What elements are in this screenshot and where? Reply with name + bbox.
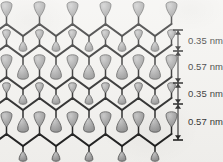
- scale-bar-svg: [0, 0, 223, 162]
- dimension-label-3: 0.35 nm: [188, 89, 223, 99]
- scale-arrowhead: [175, 52, 181, 56]
- scale-arrowhead: [175, 84, 181, 88]
- dimension-label-2: 0.57 nm: [188, 62, 223, 72]
- dimension-label-4: 0.57 nm: [188, 117, 223, 127]
- scale-arrowhead: [175, 135, 181, 139]
- scale-arrowhead: [175, 99, 181, 103]
- dimension-label-1: 0.35 nm: [188, 36, 223, 46]
- scale-arrowhead: [175, 105, 181, 109]
- scale-bar-group: [173, 30, 183, 140]
- scale-arrowhead: [175, 31, 181, 35]
- scale-arrowhead: [175, 78, 181, 82]
- scale-arrowhead: [175, 46, 181, 50]
- figure-root: 0.35 nm 0.57 nm 0.35 nm 0.57 nm: [0, 0, 223, 162]
